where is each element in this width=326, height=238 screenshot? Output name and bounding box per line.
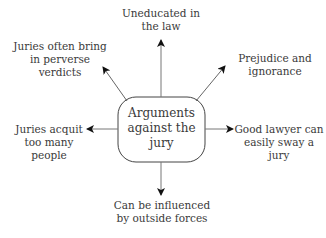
node-left-label: Juries acquit too many people xyxy=(12,123,86,162)
node-top-label: Uneducated in the law xyxy=(111,7,211,33)
spider-diagram: Arguments against the jury Uneducated in… xyxy=(0,0,326,238)
arrow-top-right xyxy=(196,66,225,101)
node-top-left-label: Juries often bring in perverse verdicts xyxy=(4,40,116,79)
center-label: Arguments against the jury xyxy=(118,106,205,151)
node-bottom-label: Can be influenced by outside forces xyxy=(106,199,218,225)
node-top-right-label: Prejudice and ignorance xyxy=(230,52,320,78)
node-right-label: Good lawyer can easily sway a jury xyxy=(232,123,326,162)
